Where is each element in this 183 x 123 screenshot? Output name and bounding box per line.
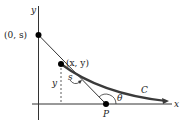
arc-s-arrowhead <box>78 80 82 84</box>
point-p <box>103 101 109 107</box>
start-point-label: (0, s) <box>4 30 27 40</box>
point-current <box>58 61 64 67</box>
current-point-label: (x, y) <box>66 58 89 68</box>
curve-arrowhead <box>162 98 169 104</box>
p-label: P <box>102 109 110 119</box>
tangent-line <box>39 35 107 104</box>
angle-label: θ <box>117 93 123 103</box>
point-start <box>36 32 42 38</box>
height-label: y <box>51 78 58 88</box>
y-axis-label: y <box>30 5 37 15</box>
x-axis-label: x <box>174 99 179 109</box>
curve-label: C <box>141 85 148 95</box>
tractrix-diagram: y x (0, s) (x, y) P C s y θ <box>0 0 183 123</box>
arc-length-label: s <box>68 72 73 82</box>
curve-c <box>61 64 166 101</box>
